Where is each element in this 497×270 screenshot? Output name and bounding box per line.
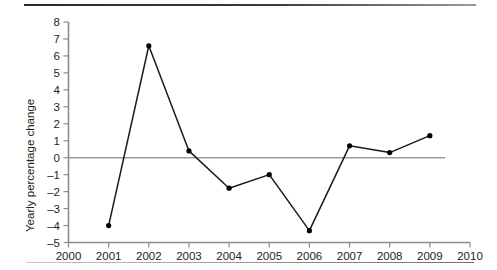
data-point-marker — [387, 150, 392, 155]
y-tick-label: 5 — [54, 67, 60, 79]
x-tick-label: 2002 — [136, 250, 162, 262]
x-tick-label: 2010 — [457, 250, 483, 262]
y-tick-label: 7 — [54, 33, 60, 45]
y-tick-label: 8 — [54, 16, 60, 28]
x-tick-label: 2007 — [337, 250, 363, 262]
y-tick-label: 4 — [54, 84, 61, 96]
data-point-marker — [347, 143, 352, 148]
figure-container: Yearly percentage change –5–4–3–2–101234… — [0, 0, 497, 270]
x-tick-label: 2009 — [417, 250, 443, 262]
data-series-line — [109, 46, 430, 231]
y-tick-label: –3 — [47, 203, 60, 215]
y-tick-label: –1 — [47, 169, 60, 181]
y-tick-label: 6 — [54, 50, 60, 62]
data-point-marker — [227, 186, 232, 191]
y-axis-title: Yearly percentage change — [24, 99, 36, 232]
data-point-marker — [186, 148, 191, 153]
data-point-marker — [427, 133, 432, 138]
y-tick-label: 2 — [54, 118, 60, 130]
data-point-marker — [307, 228, 312, 233]
data-point-marker — [106, 223, 111, 228]
line-chart: Yearly percentage change –5–4–3–2–101234… — [0, 0, 497, 270]
y-tick-label: –4 — [47, 220, 60, 232]
x-tick-label: 2004 — [216, 250, 242, 262]
y-tick-label: 1 — [54, 135, 60, 147]
x-tick-label: 2001 — [96, 250, 122, 262]
data-point-marker — [146, 43, 151, 48]
x-tick-label: 2006 — [297, 250, 323, 262]
y-tick-label: –5 — [47, 237, 60, 249]
y-axis-tick-labels: –5–4–3–2–1012345678 — [47, 16, 60, 249]
x-tick-label: 2003 — [176, 250, 202, 262]
data-point-markers — [106, 43, 432, 233]
y-tick-label: –2 — [47, 186, 60, 198]
x-tick-label: 2008 — [377, 250, 403, 262]
data-point-marker — [267, 172, 272, 177]
y-axis-title-group: Yearly percentage change — [24, 99, 36, 232]
x-axis-tick-labels: 2000200120022003200420052006200720082009… — [56, 250, 483, 262]
y-tick-label: 0 — [54, 152, 60, 164]
y-tick-label: 3 — [54, 101, 60, 113]
x-tick-label: 2005 — [256, 250, 282, 262]
x-tick-label: 2000 — [56, 250, 82, 262]
